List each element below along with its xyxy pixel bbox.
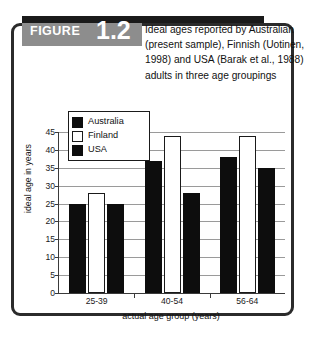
- figure-number-label: 1.2: [96, 18, 131, 43]
- y-tick-label: 45: [45, 127, 55, 137]
- legend-item-australia: Australia: [72, 115, 145, 129]
- figure-word-label: FIGURE: [30, 25, 80, 38]
- y-tick-mark: [55, 293, 59, 294]
- legend-swatch-finland: [72, 131, 83, 142]
- legend-label-usa: USA: [88, 145, 107, 154]
- chart-legend: Australia Finland USA: [68, 111, 150, 161]
- bar-australia-25-39: [69, 204, 86, 293]
- y-tick-label: 15: [45, 234, 55, 244]
- y-tick-label: 25: [45, 199, 55, 209]
- bar-finland-56-64: [239, 136, 256, 293]
- figure-number-band: FIGURE 1.2: [22, 16, 142, 46]
- legend-item-finland: Finland: [72, 129, 145, 143]
- x-group-label: 56-64: [236, 296, 258, 306]
- x-axis-title: actual age group (years): [58, 311, 284, 321]
- legend-item-usa: USA: [72, 143, 145, 157]
- bar-usa-40-54: [183, 193, 200, 293]
- bar-finland-25-39: [88, 193, 105, 293]
- y-tick-label: 5: [50, 270, 55, 280]
- legend-label-australia: Australia: [88, 117, 124, 126]
- x-group-label: 25-39: [86, 296, 108, 306]
- figure-caption: Ideal ages reported by Australian (prese…: [145, 22, 305, 83]
- figure-root: FIGURE 1.2 Ideal ages reported by Austra…: [0, 0, 313, 347]
- bar-usa-25-39: [107, 204, 124, 293]
- legend-swatch-usa: [72, 145, 83, 156]
- x-group-separator: [210, 293, 211, 298]
- y-tick-label: 40: [45, 145, 55, 155]
- bar-australia-56-64: [220, 157, 237, 293]
- bar-usa-56-64: [258, 168, 275, 293]
- x-group-separator: [134, 293, 135, 298]
- legend-swatch-australia: [72, 117, 83, 128]
- y-tick-label: 35: [45, 163, 55, 173]
- y-tick-label: 30: [45, 181, 55, 191]
- bar-finland-40-54: [164, 136, 181, 293]
- y-axis-title: ideal age in years: [23, 144, 33, 213]
- y-tick-label: 10: [45, 252, 55, 262]
- bar-australia-40-54: [145, 161, 162, 293]
- x-group-label: 40-54: [161, 296, 183, 306]
- y-tick-label: 20: [45, 216, 55, 226]
- legend-label-finland: Finland: [88, 131, 118, 140]
- gridline: [59, 293, 285, 294]
- y-tick-label: 0: [50, 288, 55, 298]
